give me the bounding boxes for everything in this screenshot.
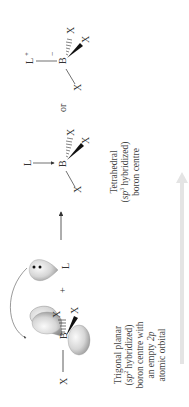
trigonal-boron-label: B bbox=[58, 332, 69, 339]
adduct-boron-label: B bbox=[57, 160, 68, 167]
ionic-boron-charge: − bbox=[48, 51, 57, 56]
curved-electron-arrow bbox=[10, 268, 27, 338]
ionic-x-hash-label: X bbox=[65, 26, 76, 34]
plus-sign: + bbox=[57, 287, 68, 293]
ligand-label: L bbox=[60, 263, 71, 269]
ionic-x-wedge-label: X bbox=[80, 35, 91, 43]
ligand-lone-pair-orbital bbox=[29, 260, 58, 281]
ionic-x-plain-label: X bbox=[72, 83, 83, 91]
tetrahedral-caption-line1: Tetrahedral bbox=[109, 142, 120, 203]
adduct-x-plain-label: X bbox=[72, 185, 83, 193]
adduct-ligand-label: L bbox=[22, 160, 33, 166]
tetrahedral-caption-line2: (sp3 hybridized) bbox=[120, 142, 131, 203]
tetrahedral-caption-line3: boron centre bbox=[131, 142, 142, 203]
adduct-x-hash-label: X bbox=[65, 128, 76, 136]
trigonal-caption-line1: Trigonal planar bbox=[113, 321, 124, 388]
ionic-ligand-label: L bbox=[24, 58, 35, 64]
trigonal-caption-line5: atomic orbital bbox=[157, 321, 168, 388]
lewis-acid-base-adduct-diagram: B X X X + L L B X X X or L + B − X X X bbox=[0, 0, 189, 407]
ionic-boron-label: B bbox=[57, 57, 68, 64]
trigonal-caption-line3: boron centre with bbox=[135, 321, 146, 388]
or-connector: or bbox=[57, 103, 68, 112]
tetrahedral-caption: Tetrahedral (sp3 hybridized) boron centr… bbox=[109, 142, 142, 203]
p-orbital-lobe-bottom bbox=[68, 325, 90, 355]
trigonal-caption: Trigonal planar (sp2 hybridized) boron c… bbox=[113, 321, 168, 388]
adduct-x-wedge-label: X bbox=[80, 136, 91, 144]
trigonal-x-hash-label: X bbox=[51, 310, 62, 318]
trigonal-caption-line2: (sp2 hybridized) bbox=[124, 321, 135, 388]
reaction-direction-arrow bbox=[176, 172, 188, 364]
trigonal-x-wedge-label: X bbox=[69, 306, 80, 314]
trigonal-x-left-label: X bbox=[58, 377, 69, 385]
trigonal-caption-line4: an empty 2p bbox=[146, 321, 157, 388]
ionic-ligand-charge: + bbox=[23, 52, 31, 56]
